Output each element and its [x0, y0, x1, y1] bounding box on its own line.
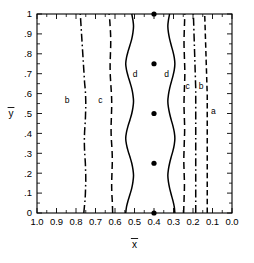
data-point-marker [151, 111, 156, 116]
y-tick-label: .5 [24, 108, 32, 119]
x-tick-label: 0.2 [186, 216, 199, 227]
x-tick-label: 0.4 [147, 216, 160, 227]
contour-curve-b-left [80, 14, 85, 213]
x-tick-label: 0.3 [167, 216, 180, 227]
chart-canvas: 1.00.90.80.70.60.50.40.30.20.10.0 0.1.2.… [0, 0, 254, 263]
x-tick-label: 0.0 [225, 216, 238, 227]
contour-curve-c-left [109, 14, 113, 213]
contour-curve-d-right [168, 14, 175, 213]
x-tick-label: 0.8 [69, 216, 82, 227]
y-tick-label: .4 [24, 128, 32, 139]
y-tick-label: 1 [27, 8, 32, 19]
data-points [151, 11, 156, 215]
y-tick-label: .8 [24, 48, 32, 59]
contour-curve-c-right [184, 14, 185, 213]
y-tick-label: .2 [24, 168, 32, 179]
data-point-marker [151, 161, 156, 166]
contour-curve-b-right [193, 14, 195, 213]
y-axis-tick-labels: 0.1.2.3.4.5.6.7.8.91 [24, 8, 32, 218]
x-tick-label: 0.1 [206, 216, 219, 227]
x-tick-label: 1.0 [30, 216, 43, 227]
contour-curve-a-right [205, 14, 208, 213]
x-tick-label: 0.5 [128, 216, 141, 227]
data-point-marker [151, 61, 156, 66]
y-tick-label: 0 [27, 207, 32, 218]
y-tick-label: .6 [24, 88, 32, 99]
x-tick-label: 0.6 [108, 216, 121, 227]
data-point-marker [151, 11, 156, 16]
curve-label-c-left: c [98, 95, 103, 105]
y-tick-label: .1 [24, 187, 32, 198]
x-tick-label: 0.7 [89, 216, 102, 227]
curve-label-b-right: b [199, 81, 204, 91]
x-axis-title: x [132, 239, 137, 250]
curve-label-b-left: b [65, 95, 70, 105]
contour-curve-d-left [126, 14, 134, 213]
x-tick-label: 0.9 [50, 216, 63, 227]
data-point-marker [151, 210, 156, 215]
y-axis-title: y [9, 108, 14, 119]
contour-curves [80, 14, 207, 213]
y-tick-label: .3 [24, 148, 32, 159]
curve-label-c-right: c [185, 81, 190, 91]
curve-label-a-right: a [211, 106, 216, 116]
y-tick-label: .7 [24, 68, 32, 79]
plot-border [37, 14, 232, 213]
axis-ticks [37, 14, 232, 213]
plot-frame [37, 14, 232, 213]
y-tick-label: .9 [24, 28, 32, 39]
curve-label-d-right: d [164, 69, 169, 79]
curve-labels: bcddcba [65, 69, 216, 116]
x-axis-tick-labels: 1.00.90.80.70.60.50.40.30.20.10.0 [30, 216, 238, 227]
curve-label-d-left: d [133, 69, 138, 79]
contour-plot-figure: 1.00.90.80.70.60.50.40.30.20.10.0 0.1.2.… [0, 0, 254, 263]
